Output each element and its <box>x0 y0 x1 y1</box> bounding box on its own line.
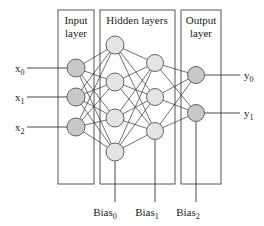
output-node-0 <box>188 67 205 84</box>
input-layer-title-2: layer <box>65 27 87 39</box>
input-node-0 <box>67 59 85 77</box>
input-node-2 <box>67 118 85 136</box>
hidden2-nodes <box>147 55 164 140</box>
hidden1-node-0 <box>106 36 124 54</box>
input-layer-title-1: Input <box>64 14 87 26</box>
bias-label-2: Bias2 <box>176 206 200 221</box>
hidden1-node-1 <box>106 73 124 91</box>
output-node-1 <box>188 105 205 122</box>
hidden2-node-0 <box>147 55 164 72</box>
output-layer-title-2: layer <box>190 27 212 39</box>
neural-network-diagram: Input layer Hidden layers Output layer x… <box>0 0 264 226</box>
input-nodes <box>67 59 85 136</box>
hidden2-node-1 <box>147 89 164 106</box>
output-layer-title-1: Output <box>186 14 217 26</box>
input-label-x2: x2 <box>15 121 25 136</box>
hidden1-node-2 <box>106 109 124 127</box>
hidden1-nodes <box>106 36 124 161</box>
output-nodes <box>188 67 205 122</box>
bias-label-1: Bias1 <box>135 206 159 221</box>
bias-label-0: Bias0 <box>93 206 117 221</box>
output-label-y0: y0 <box>244 69 254 84</box>
input-label-x1: x1 <box>15 91 25 106</box>
hidden1-node-3 <box>106 143 124 161</box>
hidden2-node-2 <box>147 123 164 140</box>
input-label-x0: x0 <box>15 62 25 77</box>
input-node-1 <box>67 88 85 106</box>
output-label-y1: y1 <box>244 107 254 122</box>
hidden-layers-title: Hidden layers <box>106 14 167 26</box>
